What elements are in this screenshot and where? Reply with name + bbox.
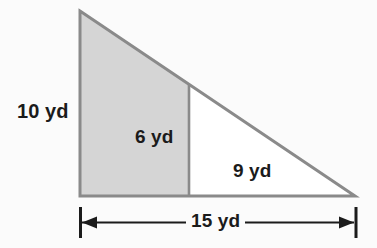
label-inner-height: 6 yd — [135, 127, 173, 146]
dimension-arrowhead-left — [82, 217, 97, 229]
shaded-trapezoid-region — [80, 11, 189, 196]
label-right-base: 9 yd — [233, 161, 271, 180]
label-left-height: 10 yd — [17, 101, 69, 121]
label-total-base: 15 yd — [186, 211, 245, 230]
geometry-figure: 10 yd 6 yd 9 yd 15 yd — [0, 0, 377, 248]
dimension-arrowhead-right — [339, 217, 354, 229]
